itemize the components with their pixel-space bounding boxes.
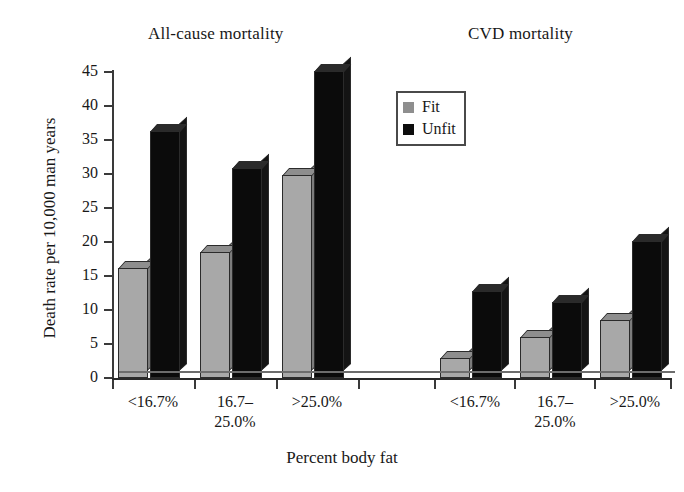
bar-side: [661, 227, 669, 371]
bar-face: [314, 71, 344, 378]
y-tick: [104, 139, 112, 141]
bar-side: [261, 154, 269, 371]
x-label-left-3: >25.0%: [263, 392, 371, 412]
bar-face: [552, 302, 582, 378]
figure-bar-chart: All-cause mortality CVD mortality Death …: [0, 0, 684, 492]
y-tick: [104, 207, 112, 209]
x-label-text: 25.0%: [534, 413, 575, 430]
bar-face: [600, 320, 630, 378]
x-label-text: >25.0%: [292, 393, 342, 410]
y-tick-label: 45: [52, 62, 98, 80]
y-tick: [104, 241, 112, 243]
bar-face: [472, 291, 502, 378]
legend-label-fit: Fit: [422, 99, 440, 115]
y-tick-label: 40: [52, 96, 98, 114]
legend: Fit Unfit: [396, 91, 466, 146]
x-tick: [194, 380, 196, 389]
bar-fit-all-cause-mortality-1: [200, 252, 230, 378]
bar-face: [440, 358, 470, 378]
bar-unfit-cvd-mortality-2: [632, 241, 662, 378]
x-label-text: 16.7–: [537, 393, 573, 410]
bar-face: [118, 268, 148, 378]
bar-face: [282, 175, 312, 378]
y-tick-label: 10: [52, 300, 98, 318]
y-tick: [104, 309, 112, 311]
bar-face: [232, 168, 262, 378]
y-tick: [104, 71, 112, 73]
x-tick: [358, 380, 360, 389]
legend-swatch-unfit-icon: [403, 124, 414, 135]
x-tick: [670, 380, 672, 389]
bar-face: [150, 131, 180, 378]
y-tick-label: 5: [52, 334, 98, 352]
bar-fit-all-cause-mortality-0: [118, 268, 148, 378]
legend-item-unfit: Unfit: [403, 118, 456, 140]
y-tick: [104, 173, 112, 175]
x-label-text: 25.0%: [214, 413, 255, 430]
x-tick: [434, 380, 436, 389]
x-label-text: <16.7%: [450, 393, 500, 410]
panel-title-all-cause: All-cause mortality: [148, 24, 284, 44]
bar-side: [343, 56, 351, 371]
y-tick-label: 0: [52, 368, 98, 386]
x-tick: [276, 380, 278, 389]
y-tick-label: 30: [52, 164, 98, 182]
bar-fit-cvd-mortality-0: [440, 358, 470, 378]
bar-side: [179, 117, 187, 371]
panel-title-cvd: CVD mortality: [468, 24, 573, 44]
bar-unfit-cvd-mortality-1: [552, 302, 582, 378]
y-tick-label: 15: [52, 266, 98, 284]
bar-fit-cvd-mortality-2: [600, 320, 630, 378]
legend-item-fit: Fit: [403, 96, 456, 118]
y-tick: [104, 105, 112, 107]
bar-unfit-all-cause-mortality-2: [314, 71, 344, 378]
x-label-right-3: >25.0%: [581, 392, 684, 412]
bar-unfit-all-cause-mortality-1: [232, 168, 262, 378]
legend-swatch-fit-icon: [403, 102, 414, 113]
y-axis-line: [112, 70, 114, 380]
legend-label-unfit: Unfit: [422, 121, 456, 137]
x-label-text: 16.7–: [217, 393, 253, 410]
bar-unfit-all-cause-mortality-0: [150, 131, 180, 378]
bar-unfit-cvd-mortality-0: [472, 291, 502, 378]
y-tick-label: 20: [52, 232, 98, 250]
y-tick: [104, 275, 112, 277]
bar-face: [632, 241, 662, 378]
x-axis-title: Percent body fat: [0, 448, 684, 468]
x-tick: [514, 380, 516, 389]
axis-floor-front: [112, 378, 672, 380]
y-tick: [104, 377, 112, 379]
x-tick: [112, 380, 114, 389]
y-tick-label: 25: [52, 198, 98, 216]
axis-floor-back: [119, 371, 675, 373]
x-label-text: >25.0%: [610, 393, 660, 410]
bar-fit-all-cause-mortality-2: [282, 175, 312, 378]
x-label-text: <16.7%: [128, 393, 178, 410]
x-tick: [594, 380, 596, 389]
bar-face: [200, 252, 230, 378]
y-tick-label: 35: [52, 130, 98, 148]
y-tick: [104, 343, 112, 345]
